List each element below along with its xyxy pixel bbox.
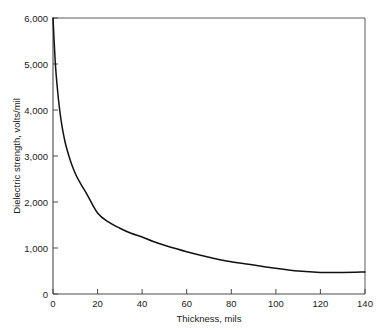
dielectric-strength-line-chart: 0 1,000 2,000 3,000 4,000 5,000 6,000 0 … [0, 0, 380, 330]
x-tick-label: 20 [92, 298, 103, 309]
chart-background [0, 0, 380, 330]
y-tick-label: 2,000 [24, 197, 48, 208]
y-tick-label: 0 [43, 289, 48, 300]
y-axis-title: Dielectric strength, volts/mil [11, 98, 22, 214]
y-tick-label: 5,000 [24, 59, 48, 70]
x-tick-label: 0 [50, 298, 55, 309]
chart-figure: 0 1,000 2,000 3,000 4,000 5,000 6,000 0 … [0, 0, 380, 330]
x-tick-label: 80 [226, 298, 237, 309]
y-tick-label: 6,000 [24, 13, 48, 24]
x-tick-label: 100 [268, 298, 284, 309]
x-tick-label: 60 [181, 298, 192, 309]
y-tick-label: 1,000 [24, 243, 48, 254]
x-tick-label: 40 [137, 298, 148, 309]
x-tick-label: 140 [357, 298, 373, 309]
x-axis-title: Thickness, mils [177, 313, 242, 324]
y-tick-label: 4,000 [24, 105, 48, 116]
x-tick-label: 120 [312, 298, 328, 309]
y-tick-label: 3,000 [24, 151, 48, 162]
